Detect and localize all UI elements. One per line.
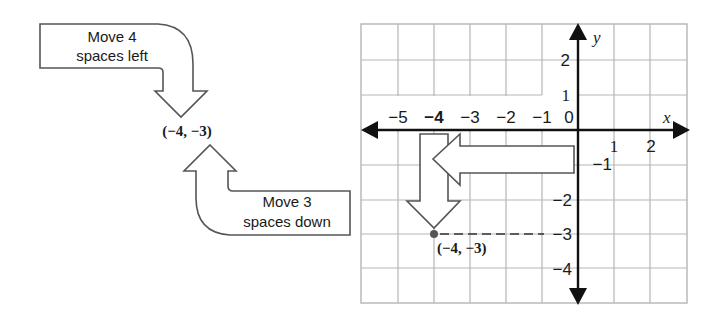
x-tick-neg5: −5 [388,108,407,127]
y-tick-neg2: −2 [553,191,572,210]
plotted-point-group: (−4, −3) [430,230,544,257]
move-left-line2: spaces left [76,47,149,64]
x-tick-2: 2 [646,137,655,156]
x-tick-1: 1 [610,137,619,156]
origin-label: 0 [564,108,573,127]
diagram-canvas: Move 4 spaces left (−4, −3) Move 3 space… [0,0,727,325]
y-axis-up-arrowhead [569,23,587,40]
x-tick-neg2: −2 [496,108,515,127]
x-tick-neg1: −1 [532,108,551,127]
move-left-line1: Move 4 [87,28,136,45]
left-panel: Move 4 spaces left (−4, −3) Move 3 space… [40,24,350,235]
y-tick-2: 2 [561,51,570,70]
move-down-line1: Move 3 [262,193,311,210]
x-tick-neg3: −3 [460,108,479,127]
point-label-graph: (−4, −3) [437,240,487,257]
x-tick-neg4: −4 [424,108,444,127]
y-axis-label: y [591,28,601,47]
y-tick-neg3: −3 [553,225,572,244]
point-label-left: (−4, −3) [162,123,212,140]
y-tick-neg4: −4 [553,260,572,279]
x-axis-label: x [662,108,671,127]
plotted-point [430,230,438,238]
move-down-line2: spaces down [243,213,331,230]
y-tick-1: 1 [562,86,571,105]
left-move-arrow [433,134,574,185]
grid-movement-arrows [407,134,574,228]
y-tick-neg1: −1 [593,155,612,174]
